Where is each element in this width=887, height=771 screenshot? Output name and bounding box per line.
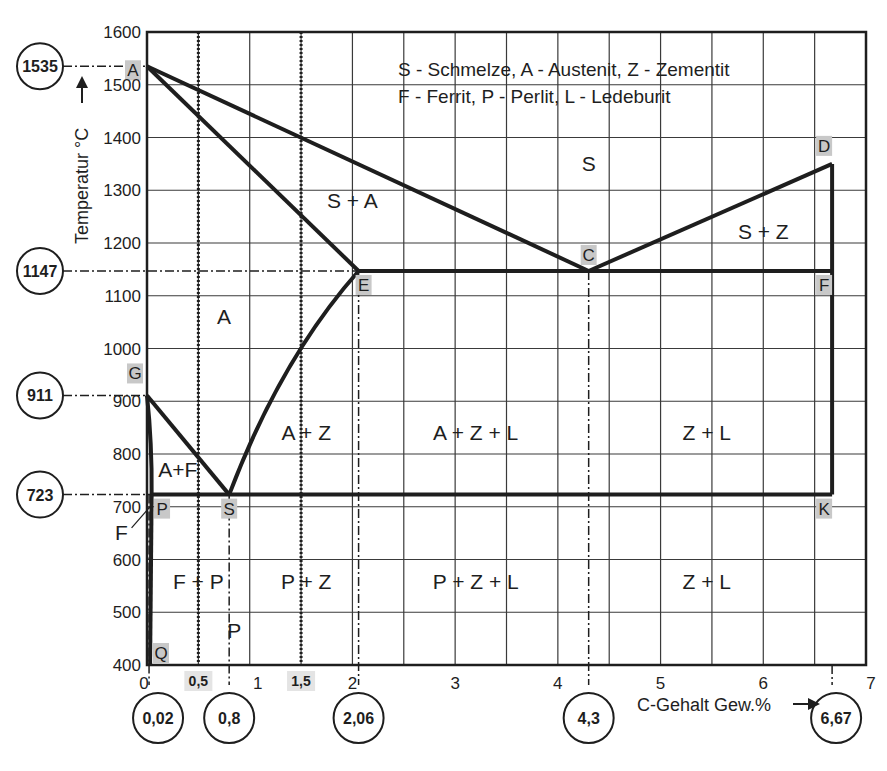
circled-values: 153511479117230,020,82,064,36,67 xyxy=(17,43,861,743)
temperature-circle-label: 1535 xyxy=(22,58,58,75)
legend: S - Schmelze, A - Austenit, Z - Zementit… xyxy=(398,59,730,107)
x-axis-label: C-Gehalt Gew.% xyxy=(637,695,771,715)
phase-line xyxy=(147,66,359,271)
y-tick-label: 1600 xyxy=(103,23,141,42)
region-label: Z + L xyxy=(683,421,731,444)
point-label-D: D xyxy=(818,137,830,156)
x-tick-label: 0 xyxy=(139,674,148,693)
y-axis-arrow-icon xyxy=(76,76,88,103)
concentration-circle-label: 0,02 xyxy=(142,710,173,727)
point-label-P: P xyxy=(156,500,167,519)
y-tick-label: 1000 xyxy=(103,340,141,359)
y-tick-label: 1500 xyxy=(103,76,141,95)
y-tick-label: 700 xyxy=(113,498,141,517)
y-tick-label: 900 xyxy=(113,392,141,411)
point-label-G: G xyxy=(128,364,141,383)
region-label: P + Z + L xyxy=(433,570,519,593)
temperature-circle-label: 1147 xyxy=(23,263,58,280)
y-tick-label: 1100 xyxy=(104,287,141,306)
region-label: S + A xyxy=(327,189,378,212)
concentration-circle-label: 6,67 xyxy=(821,710,852,727)
region-label: P xyxy=(227,619,241,642)
point-label-K: K xyxy=(818,500,830,519)
concentration-circle-label: 4,3 xyxy=(578,710,600,727)
point-label-S: S xyxy=(223,500,234,519)
region-label: S + Z xyxy=(738,220,789,243)
x-tick-label: 1 xyxy=(253,674,262,693)
y-tick-label: 1400 xyxy=(103,129,141,148)
legend-line-1: S - Schmelze, A - Austenit, Z - Zementit xyxy=(398,59,730,80)
temperature-circle-label: 723 xyxy=(27,487,54,504)
region-label: A + Z + L xyxy=(433,421,518,444)
y-axis-label: Temperatur °C xyxy=(72,128,92,244)
region-label: F + P xyxy=(173,570,224,593)
x-tick-label-minor: 1,5 xyxy=(291,673,311,689)
point-label-F: F xyxy=(819,276,829,295)
y-axis-title: Temperatur °C xyxy=(72,128,92,244)
region-label: P + Z xyxy=(281,570,332,593)
x-tick-label: 3 xyxy=(450,674,459,693)
x-tick-label: 2 xyxy=(348,674,357,693)
x-tick-label: 6 xyxy=(759,674,768,693)
concentration-circle-label: 2,06 xyxy=(343,710,374,727)
x-tick-label-minor: 0,5 xyxy=(189,673,209,689)
phase-line xyxy=(229,271,358,495)
y-tick-label: 1200 xyxy=(103,234,141,253)
region-label: F xyxy=(115,521,128,544)
point-label-Q: Q xyxy=(154,644,167,663)
y-tick-label: 1300 xyxy=(103,181,141,200)
region-label: S xyxy=(582,152,596,175)
x-tick-label: 5 xyxy=(656,674,665,693)
region-label: A + Z xyxy=(281,421,331,444)
y-tick-label: 400 xyxy=(113,656,141,675)
x-tick-label: 7 xyxy=(866,674,875,693)
iron-carbon-diagram: ACDEFGKPSQ SS + AS + ZAA + ZA + Z + LZ +… xyxy=(0,0,887,771)
phase-line xyxy=(589,164,832,271)
region-label: A+F xyxy=(158,458,197,481)
phase-line xyxy=(150,495,152,665)
region-label: Z + L xyxy=(683,570,731,593)
point-label-C: C xyxy=(583,246,595,265)
y-tick-label: 500 xyxy=(113,603,141,622)
y-tick-label: 600 xyxy=(113,551,141,570)
legend-line-2: F - Ferrit, P - Perlit, L - Ledeburit xyxy=(398,86,671,107)
concentration-circle-label: 0,8 xyxy=(218,710,240,727)
y-tick-label: 800 xyxy=(113,445,141,464)
x-tick-label: 4 xyxy=(553,674,562,693)
region-label: A xyxy=(217,305,231,328)
temperature-circle-label: 911 xyxy=(27,387,53,404)
point-label-E: E xyxy=(358,276,369,295)
